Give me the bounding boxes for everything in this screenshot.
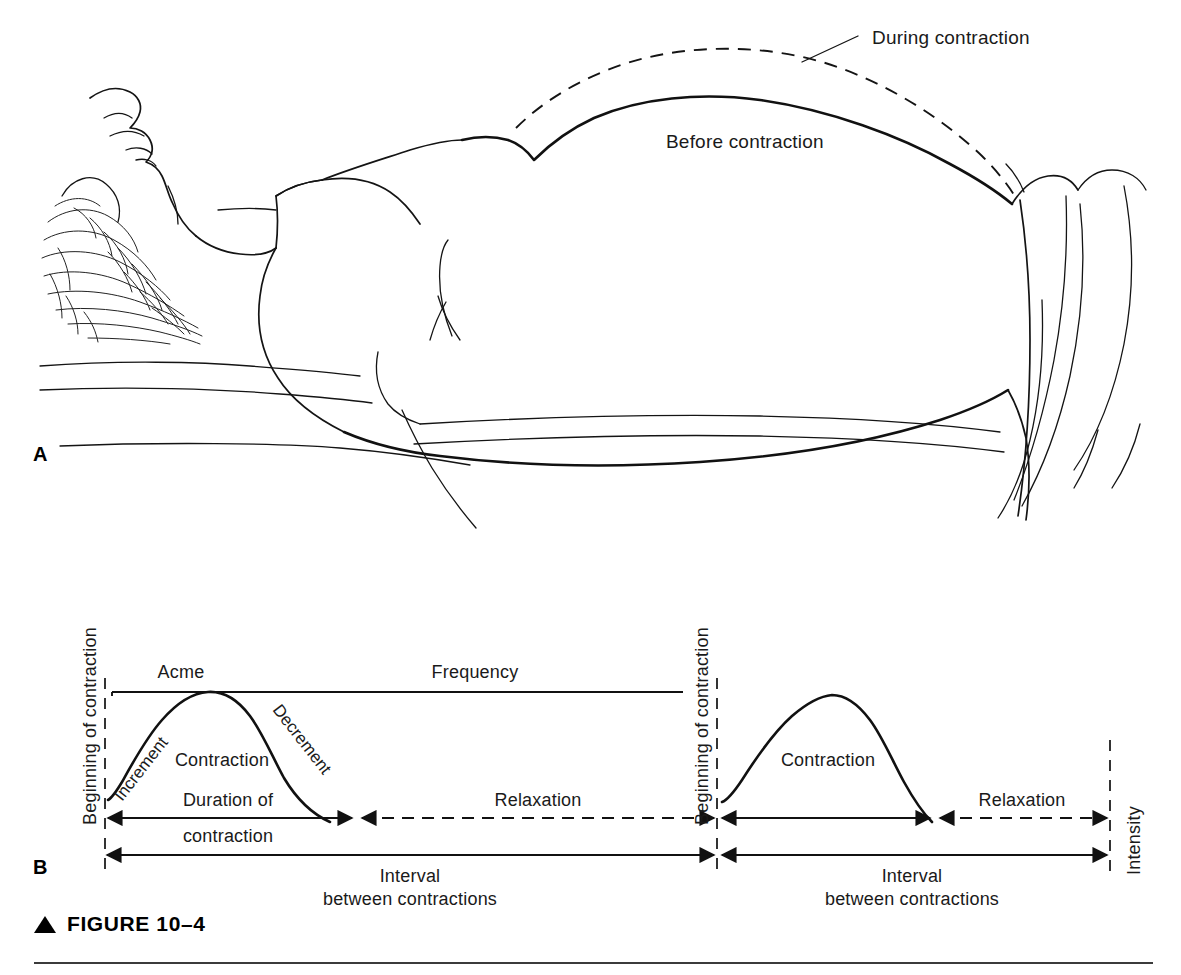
label-duration-line1: Duration of — [183, 790, 274, 810]
label-beginning-of-contraction-1: Beginning of contraction — [80, 627, 100, 825]
caption-divider — [34, 962, 1153, 964]
face-profile — [90, 89, 276, 255]
figure-caption: FIGURE 10–4 — [0, 912, 1181, 936]
caption-label: FIGURE 10–4 — [67, 912, 206, 936]
panel-b-letter: B — [33, 856, 48, 879]
body-contour-before — [259, 97, 1012, 466]
panel-b-graph: Beginning of contraction Beginning of co… — [0, 530, 1181, 910]
label-during-contraction: During contraction — [872, 27, 1030, 48]
label-duration-line2: contraction — [183, 826, 273, 846]
label-increment: Increment — [110, 733, 172, 804]
label-interval-1-line1: Interval — [380, 866, 441, 886]
skin-crease-marks — [430, 240, 460, 340]
during-contraction-leader — [802, 36, 858, 62]
label-interval-2-line2: between contractions — [825, 889, 999, 909]
label-contraction-1: Contraction — [175, 750, 269, 770]
label-acme: Acme — [158, 662, 205, 682]
draped-sheet — [998, 164, 1146, 520]
panel-a-illustration: During contraction Before contraction — [0, 0, 1181, 530]
panel-a-drawing: During contraction Before contraction — [0, 0, 1181, 530]
label-relaxation-2: Relaxation — [978, 790, 1065, 810]
label-interval-1-line2: between contractions — [323, 889, 497, 909]
hair — [42, 178, 202, 344]
sheet-band — [376, 352, 1004, 528]
label-frequency: Frequency — [432, 662, 519, 682]
label-relaxation-1: Relaxation — [494, 790, 581, 810]
panel-b-diagram: Beginning of contraction Beginning of co… — [0, 530, 1181, 910]
label-contraction-2: Contraction — [781, 750, 875, 770]
label-interval-2-line1: Interval — [882, 866, 943, 886]
during-contraction-contour — [516, 49, 1016, 198]
panel-a-letter: A — [33, 443, 48, 466]
triangle-marker-icon — [34, 916, 56, 933]
label-before-contraction: Before contraction — [666, 131, 824, 152]
figure-page: During contraction Before contraction A — [0, 0, 1181, 975]
caption-row: FIGURE 10–4 — [0, 912, 1181, 936]
label-intensity: Intensity — [1124, 806, 1144, 875]
label-beginning-of-contraction-2: Beginning of contraction — [692, 627, 712, 825]
